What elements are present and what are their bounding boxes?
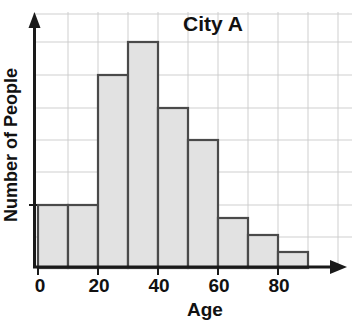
chart-canvas: 0 20 40 60 80 City A Age Number of Peopl… bbox=[0, 0, 359, 322]
x-tick-label-80: 80 bbox=[268, 275, 289, 296]
x-tick-label-60: 60 bbox=[208, 275, 229, 296]
bars-group bbox=[38, 42, 308, 268]
x-tick-label-0: 0 bbox=[35, 275, 46, 296]
x-axis-title: Age bbox=[187, 299, 223, 320]
x-axis-arrow-icon bbox=[330, 260, 347, 274]
x-tick-label-40: 40 bbox=[148, 275, 169, 296]
y-axis-title: Number of People bbox=[1, 68, 21, 222]
bar-30-40 bbox=[128, 42, 158, 268]
bar-50-60 bbox=[188, 140, 218, 268]
bar-70-80 bbox=[248, 235, 278, 268]
bar-10-20 bbox=[68, 205, 98, 268]
chart-title: City A bbox=[183, 12, 243, 35]
x-tick-label-20: 20 bbox=[88, 275, 109, 296]
bar-60-70 bbox=[218, 218, 248, 268]
histogram-figure: 0 20 40 60 80 City A Age Number of Peopl… bbox=[0, 0, 359, 322]
bar-40-50 bbox=[158, 108, 188, 268]
bar-20-30 bbox=[98, 75, 128, 268]
bar-0-10 bbox=[38, 205, 68, 268]
